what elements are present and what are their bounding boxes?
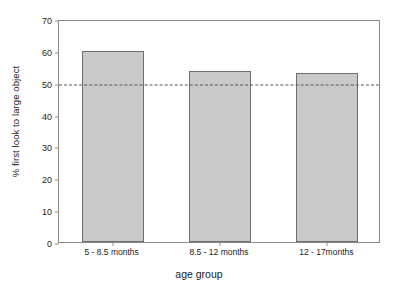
y-axis-tick-mark <box>55 212 59 213</box>
y-axis-tick-label: 0 <box>47 240 55 249</box>
y-axis-tick-label: 40 <box>42 112 55 121</box>
x-axis-category-label: 12 - 17months <box>299 247 353 257</box>
y-axis-tick: 70 <box>42 17 59 26</box>
x-axis-title: age group <box>0 268 398 280</box>
x-axis-tick-mark <box>327 242 328 246</box>
y-axis-tick: 40 <box>42 112 59 121</box>
plot-area: 010203040506070 <box>58 20 380 243</box>
y-axis-tick-mark <box>55 52 59 53</box>
y-axis-tick: 10 <box>42 208 59 217</box>
y-axis-tick-mark <box>55 21 59 22</box>
y-axis-tick-mark <box>55 116 59 117</box>
y-axis-tick-mark <box>55 148 59 149</box>
y-axis-tick: 0 <box>47 240 59 249</box>
y-axis-tick: 20 <box>42 176 59 185</box>
y-axis-tick-label: 50 <box>42 80 55 89</box>
y-axis-tick-label: 60 <box>42 48 55 57</box>
y-axis-tick-label: 30 <box>42 144 55 153</box>
bar <box>296 73 358 242</box>
y-axis-tick-label: 70 <box>42 17 55 26</box>
y-axis-tick-label: 10 <box>42 208 55 217</box>
y-axis-tick: 30 <box>42 144 59 153</box>
y-axis-tick-label: 20 <box>42 176 55 185</box>
x-axis-category-label: 8.5 - 12 months <box>189 247 248 257</box>
y-axis-tick: 50 <box>42 80 59 89</box>
bar-chart-figure: % first look to large object 01020304050… <box>0 0 398 296</box>
bar <box>82 51 144 242</box>
y-axis-tick: 60 <box>42 48 59 57</box>
bar <box>189 71 251 242</box>
y-axis-title: % first look to large object <box>8 0 24 243</box>
y-axis-title-text: % first look to large object <box>11 66 22 178</box>
y-axis-tick-mark <box>55 180 59 181</box>
x-axis-category-label: 5 - 8.5 months <box>84 247 138 257</box>
x-axis-tick-mark <box>112 242 113 246</box>
reference-line <box>59 84 379 85</box>
y-axis-tick-mark <box>55 244 59 245</box>
x-axis-tick-mark <box>220 242 221 246</box>
